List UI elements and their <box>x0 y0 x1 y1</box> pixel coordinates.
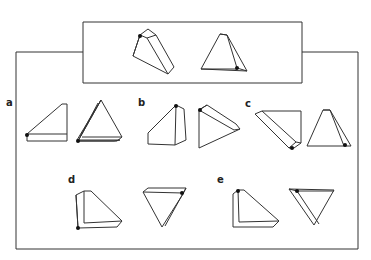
marker-dot <box>25 133 29 137</box>
marker-dot <box>290 146 294 150</box>
example-shape-2 <box>201 34 247 71</box>
option-c-shape-2 <box>307 110 351 146</box>
option-a-shape-1 <box>27 104 67 141</box>
option-label-a: a <box>6 98 13 108</box>
option-a-shape-2 <box>77 100 122 141</box>
option-d-shape-2 <box>143 188 186 227</box>
option-label-c: c <box>245 99 251 109</box>
option-e-shape-1 <box>233 190 279 227</box>
option-d-shape-1 <box>76 191 122 228</box>
option-c-shape-1 <box>255 111 301 148</box>
marker-dot <box>236 189 240 193</box>
outer-frame <box>16 52 358 249</box>
marker-dot <box>198 108 202 112</box>
marker-dot <box>174 104 178 108</box>
marker-dot <box>235 66 239 70</box>
puzzle-figure <box>0 0 371 260</box>
option-label-e: e <box>217 175 224 185</box>
marker-dot <box>180 191 184 195</box>
option-e-shape-2 <box>289 189 334 225</box>
option-label-b: b <box>138 98 145 108</box>
marker-dot <box>343 143 347 147</box>
option-b-shape-2 <box>199 105 240 148</box>
marker-dot <box>295 189 299 193</box>
marker-dot <box>76 226 80 230</box>
marker-dot <box>138 34 142 38</box>
marker-dot <box>76 139 80 143</box>
option-label-d: d <box>68 175 75 185</box>
example-box <box>83 22 302 83</box>
option-b-shape-1 <box>148 105 186 145</box>
